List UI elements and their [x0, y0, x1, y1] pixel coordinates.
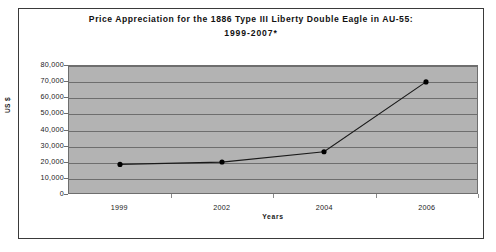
y-tick-label: 20,000 — [20, 158, 64, 166]
x-tick-mark — [376, 194, 377, 198]
data-point-marker — [219, 159, 224, 164]
x-tick-label: 2006 — [418, 203, 435, 212]
chart-title-line1: Price Appreciation for the 1886 Type III… — [89, 14, 413, 24]
data-point-marker — [423, 79, 428, 84]
y-tick-label: 40,000 — [20, 126, 64, 134]
y-tick-label: 70,000 — [20, 77, 64, 85]
chart-title-line2: 1999-2007* — [18, 27, 484, 41]
y-axis-title: US $ — [4, 97, 11, 113]
series-line — [120, 82, 426, 165]
y-axis-ticks: 80,00070,00060,00050,00040,00030,00020,0… — [16, 65, 64, 194]
data-series-line — [69, 66, 477, 193]
y-tick-label: 80,000 — [20, 61, 64, 69]
x-tick-label: 1999 — [111, 203, 128, 212]
y-tick-label: 50,000 — [20, 109, 64, 117]
x-tick-mark — [273, 194, 274, 198]
plot-area — [68, 65, 478, 194]
chart-figure: Price Appreciation for the 1886 Type III… — [0, 0, 496, 252]
x-tick-label: 2002 — [213, 203, 230, 212]
y-tick-label: 0 — [20, 190, 64, 198]
y-tick-label: 60,000 — [20, 93, 64, 101]
x-tick-mark — [478, 194, 479, 198]
x-axis-title: Years — [68, 213, 478, 220]
y-tick-label: 10,000 — [20, 174, 64, 182]
x-tick-mark — [171, 194, 172, 198]
data-point-marker — [117, 162, 122, 167]
x-tick-label: 2004 — [316, 203, 333, 212]
y-tick-label: 30,000 — [20, 142, 64, 150]
chart-title: Price Appreciation for the 1886 Type III… — [18, 13, 484, 40]
data-point-marker — [321, 149, 326, 154]
